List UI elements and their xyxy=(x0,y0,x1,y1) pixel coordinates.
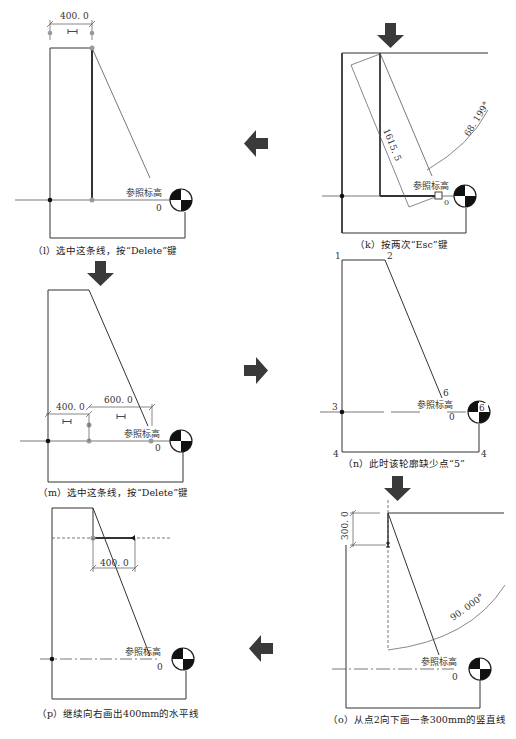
panel-m: 400. 0 600. 0 参照标高 0 xyxy=(20,290,192,482)
dim-width: 400. 0 xyxy=(100,558,129,568)
dim-width: 400. 0 xyxy=(60,11,89,21)
panel-n: 1 2 3 4 4 6 参照标高 0 6 xyxy=(320,251,490,459)
level-value: 0 xyxy=(156,203,162,213)
point-label-4b: 4 xyxy=(481,449,487,459)
level-value: 0 xyxy=(155,443,161,453)
arrow-down-into-k xyxy=(377,23,404,48)
level-name: 参照标高 xyxy=(413,180,449,191)
caption-k: （k）按两次“Esc”键 xyxy=(355,237,448,251)
level-value: 0 xyxy=(452,672,458,682)
arrow-right-m-to-n xyxy=(244,357,268,384)
panel-k: 1615. 5 68. 199° 参照标高 0 xyxy=(322,53,491,233)
caption-m: （m）选中这条线，按“Delete”键 xyxy=(38,485,188,499)
dim-right: 600. 0 xyxy=(104,395,133,405)
dim-length: 1615. 5 xyxy=(381,127,403,163)
point-label-4a: 4 xyxy=(333,449,339,459)
level-value: 0 xyxy=(449,412,455,422)
angle-label: 68. 199° xyxy=(462,100,491,138)
arrow-left-k-to-l xyxy=(244,130,268,157)
caption-n: （n）此时该轮廓缺少点“5” xyxy=(343,456,465,470)
caption-l: （l）选中这条线，按“Delete”键 xyxy=(33,243,177,257)
level-name: 参照标高 xyxy=(421,656,457,667)
point-label-6a: 6 xyxy=(443,388,449,398)
arrow-down-n-to-o xyxy=(384,476,411,501)
point-label-1: 1 xyxy=(335,251,341,261)
level-value: 0 xyxy=(444,198,449,207)
caption-o: （o）从点2向下画一条300mm的竖直线 xyxy=(328,712,506,726)
angle-label: 90. 000° xyxy=(448,592,485,623)
point-label-2: 2 xyxy=(387,251,393,261)
dim-height: 300. 0 xyxy=(340,511,350,540)
level-name: 参照标高 xyxy=(124,428,160,439)
point-label-6b: 6 xyxy=(479,403,485,413)
arrow-down-l-to-m xyxy=(87,261,114,286)
caption-p: （p）继续向右画出400mm的水平线 xyxy=(37,706,199,720)
diagram-canvas: 400. 0 参照标高 0 1615. 5 68. 199° 参照标高 0 xyxy=(0,0,516,739)
panel-l: 400. 0 参照标高 0 xyxy=(15,11,192,238)
level-name: 参照标高 xyxy=(125,646,161,657)
panel-o: 300. 0 90. 000° 参照标高 0 xyxy=(332,500,505,708)
point-label-3: 3 xyxy=(332,402,338,412)
panel-p: 400. 0 参照标高 0 xyxy=(40,508,194,699)
dim-left: 400. 0 xyxy=(56,402,85,412)
level-name: 参照标高 xyxy=(417,399,453,410)
level-value: 0 xyxy=(157,662,163,672)
arrow-left-o-to-p xyxy=(249,635,273,662)
level-name: 参照标高 xyxy=(126,187,162,198)
